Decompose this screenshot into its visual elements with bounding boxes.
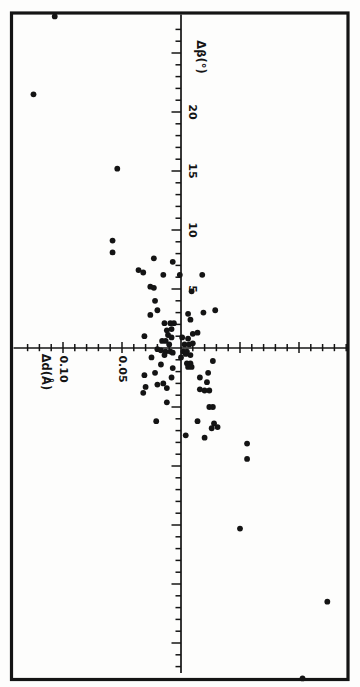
data-point (151, 255, 157, 261)
data-point (114, 166, 120, 172)
data-point (143, 384, 149, 390)
data-point (215, 424, 221, 430)
data-point (212, 307, 218, 313)
d-tick-label: 0.05 (116, 355, 129, 382)
data-point (324, 599, 330, 605)
data-point (140, 270, 146, 276)
data-point (110, 238, 116, 244)
data-point (149, 355, 155, 361)
data-point (160, 272, 166, 278)
data-point (197, 375, 203, 381)
data-point (189, 364, 195, 370)
data-point (189, 288, 195, 294)
data-point (170, 259, 176, 265)
data-point (205, 370, 211, 376)
data-point (209, 425, 215, 431)
data-point (140, 390, 146, 396)
d-axis-title: Δd(Å) (39, 354, 54, 391)
data-point (199, 272, 205, 278)
data-point (164, 385, 170, 391)
data-point (142, 372, 148, 378)
data-point (151, 285, 157, 291)
data-point (158, 362, 164, 368)
beta-tick-label: 10 (186, 222, 199, 238)
data-point (300, 676, 306, 682)
data-point (188, 317, 194, 323)
data-point (155, 307, 161, 313)
scatter-plot-figure: 2015105 0.100.05 Δβ(°) Δd(Å) (0, 0, 360, 687)
beta-axis-title: Δβ(°) (194, 40, 208, 73)
data-point (244, 441, 250, 447)
data-point (155, 382, 161, 388)
data-point (152, 298, 158, 304)
data-point (179, 334, 185, 340)
beta-axis-tick-labels: 2015105 (186, 104, 199, 292)
data-point (202, 435, 208, 441)
d-axis-tick-labels: 0.100.05 (57, 355, 129, 382)
data-point (171, 320, 177, 326)
data-point (142, 333, 148, 339)
data-point (210, 358, 216, 364)
data-point (169, 334, 175, 340)
data-point (177, 272, 183, 278)
data-point (170, 350, 176, 356)
plot-border (12, 13, 349, 680)
data-point (195, 330, 201, 336)
data-point (147, 312, 153, 318)
data-point (190, 340, 196, 346)
data-point (204, 379, 210, 385)
data-point (201, 310, 207, 316)
data-point (195, 418, 201, 424)
data-point (178, 355, 184, 361)
data-point (164, 399, 170, 405)
data-point (110, 250, 116, 256)
data-point (52, 14, 58, 20)
data-point (185, 336, 191, 342)
data-point (169, 375, 175, 381)
data-point (31, 91, 37, 97)
data-point (166, 342, 172, 348)
beta-tick-label: 15 (186, 163, 199, 178)
data-point (183, 432, 189, 438)
data-point (152, 370, 158, 376)
beta-tick-label: 20 (186, 104, 199, 120)
data-point (188, 352, 194, 358)
data-point (206, 388, 212, 394)
data-point (210, 404, 216, 410)
data-point (162, 320, 168, 326)
data-point (162, 352, 168, 358)
data-point (244, 456, 250, 462)
data-point (153, 418, 159, 424)
data-point (170, 365, 176, 371)
data-point (237, 526, 243, 532)
data-point (185, 311, 191, 317)
data-point (160, 381, 166, 387)
d-tick-label: 0.10 (57, 355, 70, 382)
